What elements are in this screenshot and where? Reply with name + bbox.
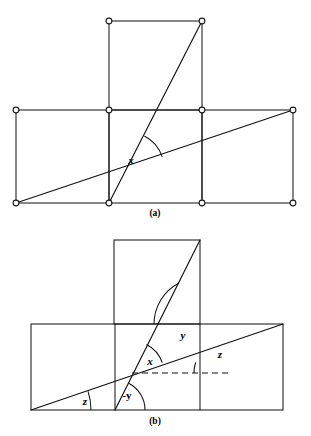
angle-x-label: x <box>146 355 153 367</box>
node-bottom-right <box>199 200 205 206</box>
node-mid-left <box>106 107 112 113</box>
panel-b-caption: (b) <box>149 416 161 427</box>
node-top-right <box>199 18 205 24</box>
panel-a-caption: (a) <box>149 208 160 219</box>
angle-z-right-label: z <box>217 348 223 360</box>
angle-x-label: x <box>127 154 134 166</box>
node-bottom-left <box>106 200 112 206</box>
node-bottom-far-left <box>13 200 19 206</box>
node-bottom-far-right <box>290 200 296 206</box>
node-mid-far-right <box>290 107 296 113</box>
figure-canvas: x(a) yxz-yz(b) <box>0 0 311 436</box>
angle-neg-y-lower-label: -y <box>122 389 132 401</box>
node-mid-far-left <box>13 107 19 113</box>
angle-z-left-label: z <box>82 395 88 407</box>
node-top-left <box>106 18 112 24</box>
node-mid-right <box>199 107 205 113</box>
figure-root: x(a) yxz-yz(b) <box>0 0 311 436</box>
angle-y-upper-label: y <box>179 329 186 341</box>
